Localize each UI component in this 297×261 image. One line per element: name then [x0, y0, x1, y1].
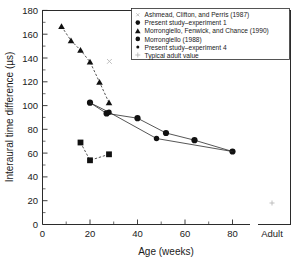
data-point-marker: [191, 137, 197, 143]
y-tick-label: 80: [27, 124, 38, 135]
y-tick-label: 0: [33, 219, 38, 230]
y-tick-label: 60: [27, 148, 38, 159]
legend-entry-label: Present study–experiment 4: [145, 44, 227, 52]
data-point-marker: [154, 136, 159, 141]
y-tick-label: 100: [22, 100, 38, 111]
data-point-marker: [106, 151, 112, 157]
legend-entry-present-study-1[interactable]: Present study–experiment 1: [136, 19, 227, 27]
x-tick-label: 0: [40, 228, 45, 239]
legend-entry-ashmead[interactable]: Ashmead, Clifton, and Perris (1987): [136, 11, 249, 19]
legend-entry-morrongiello-1988[interactable]: Morrongiello (1988): [136, 36, 202, 44]
y-tick-label: 120: [22, 76, 38, 87]
legend-entry-label: Typical adult value: [145, 52, 200, 60]
y-tick-label: 20: [27, 195, 38, 206]
y-axis-title: Interaural time difference (µs): [4, 52, 15, 183]
x-tick-label: 20: [85, 228, 96, 239]
x-axis-title: Age (weeks): [138, 246, 194, 257]
interaural-time-difference-chart: 0 20 40 60 80 100 120 140 160 180 Intera…: [0, 0, 297, 261]
y-tick-label: 180: [22, 5, 38, 16]
data-point-marker: [134, 115, 140, 121]
x-tick-label: 80: [227, 228, 238, 239]
legend-entry-label: Morrongiello, Fenwick, and Chance (1990): [145, 27, 269, 35]
x-tick-label-adult: Adult: [261, 228, 283, 239]
y-tick-label: 140: [22, 53, 38, 64]
data-point-marker: [163, 130, 169, 136]
legend-entry-label: Morrongiello (1988): [145, 36, 202, 44]
legend-entry-label: Ashmead, Clifton, and Perris (1987): [145, 11, 250, 19]
y-tick-label: 160: [22, 29, 38, 40]
legend-entry-typical-adult-value[interactable]: Typical adult value: [135, 52, 199, 60]
chart-legend: Ashmead, Clifton, and Perris (1987) Pres…: [132, 9, 290, 60]
legend-entry-present-study-4[interactable]: Present study–experiment 4: [136, 44, 227, 52]
chart-figure: 0 20 40 60 80 100 120 140 160 180 Intera…: [0, 0, 297, 261]
data-point-marker: [87, 157, 93, 163]
x-tick-label: 40: [132, 228, 143, 239]
data-point-marker: [106, 110, 111, 115]
y-tick-label: 40: [27, 171, 38, 182]
x-tick-label: 60: [180, 228, 191, 239]
legend-entry-label: Present study–experiment 1: [145, 19, 227, 27]
legend-entry-morrongiello-fenwick-chance[interactable]: Morrongiello, Fenwick, and Chance (1990): [135, 27, 269, 35]
data-point-marker: [78, 140, 84, 146]
